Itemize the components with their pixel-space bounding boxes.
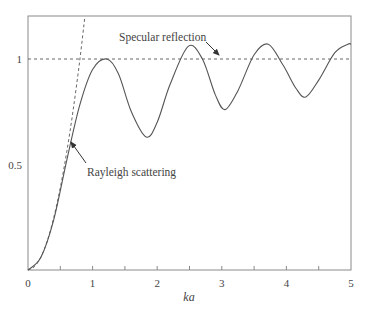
- chart-figure: 0 1 2 3 4 5 0.5 1 ka Specular reflection…: [0, 0, 365, 311]
- x-tick-label: 5: [348, 277, 354, 289]
- x-tick-label: 1: [90, 277, 96, 289]
- scattering-cross-section-curve: [28, 44, 351, 270]
- plot-frame: [28, 16, 351, 270]
- x-tick-label: 3: [219, 277, 225, 289]
- x-axis-ticks: [60, 266, 318, 270]
- rayleigh-scattering-curve: [28, 17, 85, 270]
- y-tick-label: 1: [17, 53, 23, 65]
- specular-reflection-label: Specular reflection: [119, 31, 206, 44]
- x-tick-label: 0: [25, 277, 31, 289]
- specular-reflection-arrow: [206, 42, 219, 55]
- rayleigh-scattering-label: Rayleigh scattering: [87, 166, 176, 179]
- x-tick-label: 2: [154, 277, 160, 289]
- x-tick-label: 4: [284, 277, 290, 289]
- x-axis-label: ka: [183, 290, 194, 304]
- x-axis-tick-labels: 0 1 2 3 4 5: [25, 277, 354, 289]
- rayleigh-scattering-arrow: [71, 142, 86, 163]
- y-tick-label: 0.5: [8, 159, 22, 171]
- y-axis-tick-labels: 0.5 1: [8, 53, 22, 171]
